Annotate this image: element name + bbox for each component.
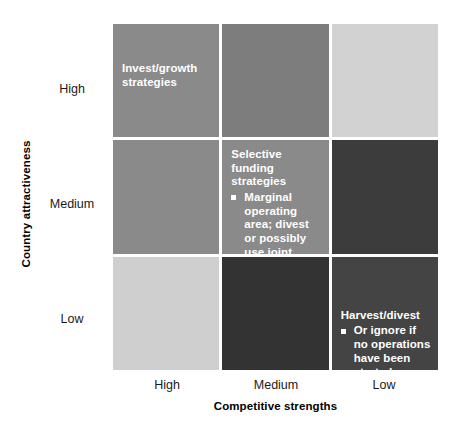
matrix-cell-title: Harvest/divest [341,309,432,323]
x-tick-label-high: High [113,379,221,392]
matrix-cell-content: Selective funding strategiesMarginal ope… [231,148,322,253]
matrix-cell [113,257,219,370]
y-tick-label-high: High [38,83,106,96]
matrix-cell: Invest/growth strategies [113,24,219,137]
matrix-cell-title: Selective funding strategies [231,148,322,189]
matrix-cell-bullet-text: Or ignore if no operations have been sta… [354,324,431,370]
matrix-cell: Harvest/divestOr ignore if no operations… [332,257,438,370]
matrix-cell-bullet: Or ignore if no operations have been sta… [341,324,432,370]
y-tick-label-medium: Medium [38,198,106,211]
matrix-cell-bullet-text: Marginal operating area; divest or possi… [244,191,314,254]
matrix-cell-content: Invest/growth strategies [122,62,213,91]
matrix-cell [332,24,438,137]
x-axis-title: Competitive strengths [113,400,438,412]
matrix-cell-bullet-list: Marginal operating area; divest or possi… [231,191,322,254]
matrix-cell [222,24,328,137]
matrix-cell-bullet: Marginal operating area; divest or possi… [231,191,322,254]
x-tick-label-low: Low [330,379,438,392]
y-axis-title: Country attractiveness [20,104,32,304]
y-tick-label-low: Low [38,313,106,326]
matrix-cell-bullet-list: Or ignore if no operations have been sta… [341,324,432,370]
matrix-cell: Selective funding strategiesMarginal ope… [222,140,328,253]
matrix-cell [222,257,328,370]
x-tick-label-medium: Medium [222,379,330,392]
matrix-grid: Invest/growth strategiesSelective fundin… [113,24,438,370]
square-bullet-icon [231,195,236,200]
strategy-matrix-figure: Country attractiveness High Medium Low I… [0,0,458,433]
square-bullet-icon [341,329,346,334]
matrix-cell-content: Harvest/divestOr ignore if no operations… [341,309,432,370]
matrix-cell [332,140,438,253]
matrix-cell [113,140,219,253]
matrix-cell-title: Invest/growth strategies [122,62,213,89]
